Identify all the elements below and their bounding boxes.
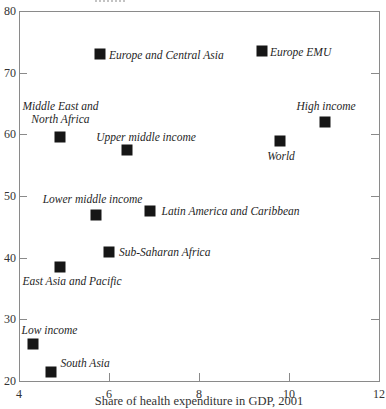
y-tick-label: 30 xyxy=(0,313,16,325)
x-tick-mark xyxy=(109,373,110,381)
y-tick-mark-left xyxy=(19,258,27,259)
data-point-marker xyxy=(27,339,38,350)
data-point-label: Europe EMU xyxy=(270,46,331,59)
y-tick-mark-left xyxy=(19,196,27,197)
data-point-marker xyxy=(104,246,115,257)
y-tick-mark-left xyxy=(19,319,27,320)
y-tick-label: 20 xyxy=(0,375,16,387)
data-point-label: Middle East and North Africa xyxy=(22,101,98,127)
data-point-marker xyxy=(275,135,286,146)
y-tick-mark-left xyxy=(19,134,27,135)
data-point-marker xyxy=(320,117,331,128)
data-point-label: Sub-Saharan Africa xyxy=(119,245,210,258)
x-tick-mark xyxy=(199,373,200,381)
data-point-marker xyxy=(54,132,65,143)
y-tick-mark-right xyxy=(371,134,379,135)
y-tick-mark-left xyxy=(19,73,27,74)
y-tick-label: 40 xyxy=(0,252,16,264)
data-point-label: Lower middle income xyxy=(43,193,143,206)
x-tick-label: 4 xyxy=(16,388,22,400)
y-tick-mark-right xyxy=(371,196,379,197)
cropped-title-fragment xyxy=(95,0,125,5)
data-point-label: South Asia xyxy=(61,357,110,370)
y-tick-label: 60 xyxy=(0,128,16,140)
y-tick-label: 80 xyxy=(0,5,16,17)
x-tick-mark xyxy=(289,373,290,381)
data-point-marker xyxy=(95,49,106,60)
data-point-label: High income xyxy=(296,100,355,113)
data-point-marker xyxy=(122,144,133,155)
y-tick-mark-right xyxy=(371,258,379,259)
data-point-marker xyxy=(144,206,155,217)
data-point-marker xyxy=(54,261,65,272)
y-tick-mark-right xyxy=(371,319,379,320)
data-point-label: East Asia and Pacific xyxy=(23,275,122,288)
y-tick-label: 70 xyxy=(0,67,16,79)
x-axis-title: Share of health expenditure in GDP, 2001 xyxy=(95,395,304,408)
data-point-marker xyxy=(45,366,56,377)
data-point-marker xyxy=(90,209,101,220)
y-tick-label: 50 xyxy=(0,190,16,202)
data-point-label: Upper middle income xyxy=(96,131,196,144)
data-point-label: Latin America and Caribbean xyxy=(162,205,300,218)
data-point-label: World xyxy=(267,150,295,163)
scatter-chart: 203040506070804681012 Low incomeSouth As… xyxy=(0,0,386,409)
data-point-label: Europe and Central Asia xyxy=(109,49,224,62)
data-point-marker xyxy=(257,46,268,57)
data-point-label: Low income xyxy=(22,324,78,337)
x-tick-label: 12 xyxy=(373,388,385,400)
y-tick-mark-right xyxy=(371,73,379,74)
